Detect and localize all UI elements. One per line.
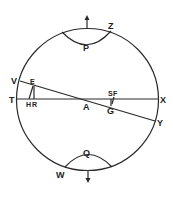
label-W: W — [56, 170, 65, 180]
label-Q: Q — [83, 148, 90, 158]
label-G: G — [107, 106, 114, 116]
label-E: E — [30, 78, 35, 85]
diagram-canvas: Z P V E T H R A S F G X Y Q W — [0, 0, 173, 198]
inclined-line-VY — [20, 81, 155, 121]
label-Z: Z — [108, 21, 114, 31]
south-arrow-icon — [86, 171, 91, 183]
label-X: X — [160, 95, 166, 105]
label-F: F — [113, 90, 118, 97]
line-E-H — [29, 86, 33, 99]
label-P: P — [83, 43, 89, 53]
segment-F-G — [112, 97, 114, 104]
label-T: T — [9, 95, 15, 105]
label-V: V — [11, 76, 17, 86]
label-A: A — [83, 102, 90, 112]
label-R: R — [32, 101, 37, 108]
label-Y: Y — [157, 118, 163, 128]
north-arrow-icon — [85, 15, 90, 28]
label-H: H — [26, 101, 31, 108]
